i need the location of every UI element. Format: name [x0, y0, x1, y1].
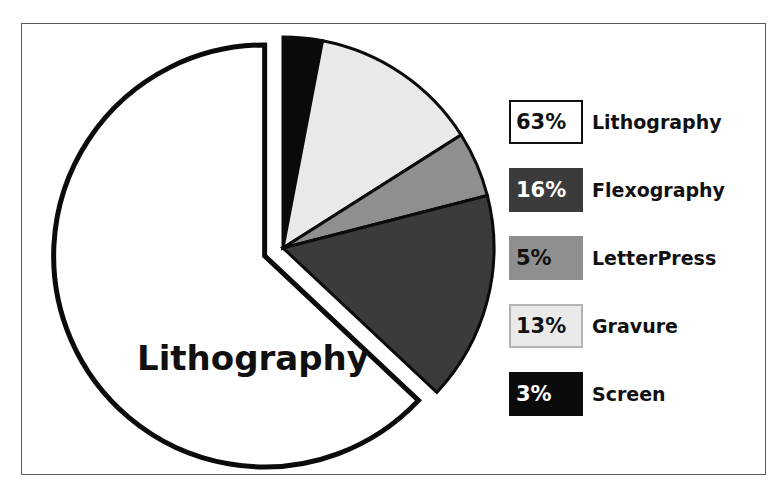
- pie-slice-label-lithography: Lithography: [118, 341, 388, 375]
- legend-label-gravure: Gravure: [592, 317, 678, 336]
- legend-swatch-letterpress: 5%: [509, 236, 583, 280]
- legend-percent-letterpress: 5%: [511, 248, 552, 269]
- legend-percent-screen: 3%: [511, 384, 552, 405]
- legend-swatch-gravure: 13%: [509, 304, 583, 348]
- legend-swatch-screen: 3%: [509, 372, 583, 416]
- legend-percent-lithography: 63%: [511, 112, 566, 133]
- legend-swatch-flexography: 16%: [509, 168, 583, 212]
- pie-chart-area: Lithography: [22, 24, 502, 474]
- pie-chart-svg: [22, 24, 502, 474]
- legend-swatch-lithography: 63%: [509, 100, 583, 144]
- legend-label-lithography: Lithography: [592, 113, 722, 132]
- legend-item-lithography[interactable]: 63% Lithography: [509, 100, 759, 144]
- legend-item-flexography[interactable]: 16% Flexography: [509, 168, 759, 212]
- legend-item-screen[interactable]: 3% Screen: [509, 372, 759, 416]
- legend-percent-flexography: 16%: [511, 180, 566, 201]
- chart-legend: 63% Lithography 16% Flexography 5% Lette…: [509, 100, 759, 440]
- legend-item-letterpress[interactable]: 5% LetterPress: [509, 236, 759, 280]
- legend-label-flexography: Flexography: [592, 181, 725, 200]
- legend-label-screen: Screen: [592, 385, 666, 404]
- legend-label-letterpress: LetterPress: [592, 249, 716, 268]
- legend-item-gravure[interactable]: 13% Gravure: [509, 304, 759, 348]
- chart-screenshot: Lithography 63% Lithography 16% Flexogra…: [0, 0, 782, 491]
- pie-slices-group: [54, 37, 494, 467]
- legend-percent-gravure: 13%: [511, 316, 566, 337]
